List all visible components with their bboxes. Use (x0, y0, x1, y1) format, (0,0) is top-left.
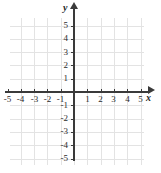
y-tick-label: -1 (55, 101, 68, 110)
y-tick-mark (71, 159, 75, 160)
x-tick-mark (8, 89, 9, 93)
y-axis-line (73, 7, 75, 161)
grid-line-horizontal (10, 65, 144, 66)
y-tick-mark (71, 145, 75, 146)
y-tick-label: -2 (55, 114, 68, 123)
y-tick-mark (71, 79, 75, 80)
y-axis-label: y (63, 3, 67, 13)
x-axis-label: x (146, 93, 151, 103)
y-tick-label: -5 (55, 154, 68, 163)
x-tick-mark (21, 89, 22, 93)
y-tick-mark (71, 26, 75, 27)
x-tick-mark (141, 89, 142, 93)
y-tick-label: 1 (55, 74, 68, 83)
y-tick-mark (71, 39, 75, 40)
grid-line-horizontal (10, 39, 144, 40)
x-tick-label: 2 (94, 95, 107, 104)
y-tick-mark (71, 132, 75, 133)
x-tick-label: 3 (107, 95, 120, 104)
y-tick-label: 4 (55, 34, 68, 43)
y-tick-mark (71, 65, 75, 66)
x-tick-mark (101, 89, 102, 93)
grid-line-horizontal (10, 79, 144, 80)
x-tick-mark (114, 89, 115, 93)
coordinate-plane: -5-4-3-2-11234554321-1-2-3-4-5 x y (0, 0, 161, 173)
x-tick-label: 1 (81, 95, 94, 104)
grid-line-horizontal (10, 105, 144, 106)
y-tick-label: -3 (55, 127, 68, 136)
x-tick-label: -2 (41, 95, 54, 104)
y-tick-mark (71, 119, 75, 120)
y-tick-label: -4 (55, 141, 68, 150)
grid-line-horizontal (10, 159, 144, 160)
x-tick-label: -4 (14, 95, 27, 104)
grid-line-horizontal (10, 145, 144, 146)
x-tick-mark (87, 89, 88, 93)
x-tick-mark (61, 89, 62, 93)
x-tick-mark (47, 89, 48, 93)
x-axis-line (5, 91, 150, 93)
grid-line-horizontal (10, 132, 144, 133)
x-tick-label: -3 (28, 95, 41, 104)
grid-line-horizontal (10, 52, 144, 53)
y-tick-mark (71, 52, 75, 53)
y-axis-arrow-icon (70, 2, 78, 9)
y-tick-mark (71, 105, 75, 106)
grid-line-horizontal (10, 26, 144, 27)
x-tick-label: -5 (1, 95, 14, 104)
x-tick-mark (127, 89, 128, 93)
grid-line-horizontal (10, 119, 144, 120)
y-tick-label: 3 (55, 48, 68, 57)
x-tick-label: 4 (121, 95, 134, 104)
y-tick-label: 5 (55, 21, 68, 30)
x-tick-mark (34, 89, 35, 93)
y-tick-label: 2 (55, 61, 68, 70)
